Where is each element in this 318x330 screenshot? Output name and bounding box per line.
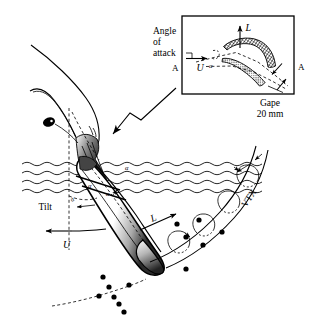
trail-dot xyxy=(116,301,121,306)
particle-dot xyxy=(196,217,201,222)
section-label-right: A xyxy=(298,62,305,72)
particle-dot xyxy=(183,234,188,239)
angle-marker-1: α xyxy=(125,164,129,171)
particle-dot xyxy=(200,242,205,247)
figure-root: L U α Angle of attack A A Gape 20 mm xyxy=(0,0,318,330)
inset-frame xyxy=(182,16,294,94)
eye-highlight xyxy=(50,120,53,123)
angle-of-attack-line1: Angle xyxy=(153,26,176,36)
trail-dot xyxy=(111,294,116,299)
inset-angle-symbol: α xyxy=(209,62,213,69)
diagram-canvas: L U α Angle of attack A A Gape 20 mm xyxy=(0,0,318,330)
particle-dot xyxy=(174,221,179,226)
section-label-left: A xyxy=(172,63,179,73)
gape-label: Gape xyxy=(260,98,280,108)
velocity-label-main: U xyxy=(63,239,71,250)
trail-dot xyxy=(126,282,131,287)
particle-dot xyxy=(183,266,188,271)
angle-of-attack-line3: attack xyxy=(153,48,176,58)
trail-dot xyxy=(96,293,101,298)
trail-dot xyxy=(121,309,126,314)
trail-dot xyxy=(106,284,111,289)
trail-dot xyxy=(100,274,105,279)
tilt-label: Tilt xyxy=(39,202,53,212)
angle-marker-4: α xyxy=(106,190,110,197)
particle-dot xyxy=(219,229,224,234)
gape-value: 20 mm xyxy=(257,109,284,119)
inset-velocity-label: U xyxy=(197,62,205,73)
angle-of-attack-line2: of xyxy=(153,37,162,47)
inset-lift-label: L xyxy=(245,22,252,33)
angle-marker-2: α xyxy=(88,182,92,189)
